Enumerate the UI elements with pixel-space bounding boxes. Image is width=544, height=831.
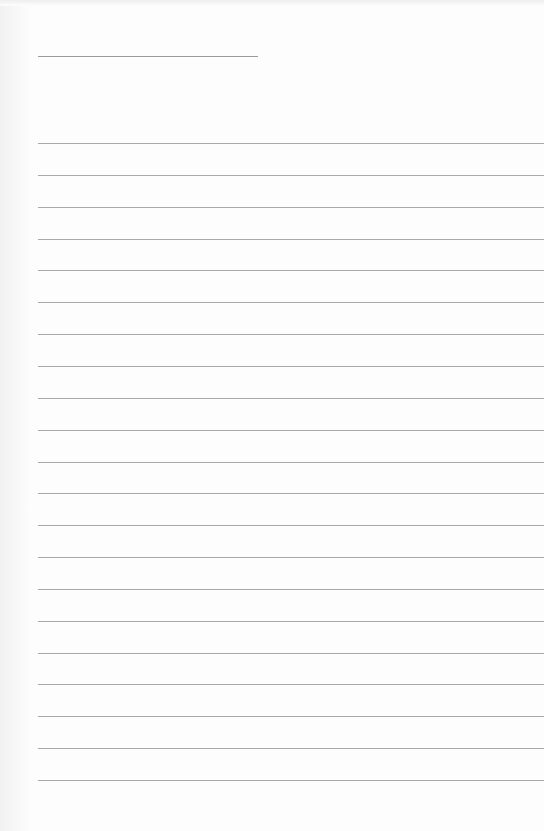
ruled-line	[38, 653, 544, 654]
ruled-line	[38, 270, 544, 271]
ruled-line	[38, 334, 544, 335]
ruled-line	[38, 716, 544, 717]
ruled-line	[38, 175, 544, 176]
ruled-line	[38, 366, 544, 367]
ruled-line	[38, 525, 544, 526]
ruled-line	[38, 143, 544, 144]
title-line	[38, 56, 258, 57]
paper-edge-shadow	[0, 0, 30, 831]
ruled-line	[38, 557, 544, 558]
ruled-line	[38, 239, 544, 240]
ruled-line	[38, 462, 544, 463]
ruled-line	[38, 493, 544, 494]
ruled-line	[38, 207, 544, 208]
ruled-line	[38, 780, 544, 781]
ruled-line	[38, 684, 544, 685]
ruled-line	[38, 302, 544, 303]
ruled-line	[38, 621, 544, 622]
ruled-line	[38, 430, 544, 431]
paper-top-edge	[0, 0, 544, 6]
ruled-line	[38, 589, 544, 590]
ruled-line	[38, 398, 544, 399]
ruled-line	[38, 748, 544, 749]
